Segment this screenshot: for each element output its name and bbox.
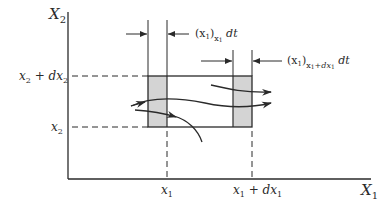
phase-space-flux-diagram: X2 X1 x2 + dx2 x2 x1 x1 + dx1 (x1)x1 dt … xyxy=(0,0,392,206)
outflow-flux-label: (x1)x1+dx1 dt xyxy=(287,54,350,70)
inflow-strip xyxy=(148,76,167,127)
x-right-tick-label: x1 + dx1 xyxy=(233,183,282,199)
trajectory-lower-tail xyxy=(174,116,202,142)
y-top-tick-label: x2 + dx2 xyxy=(19,69,68,85)
x-left-tick-label: x1 xyxy=(161,183,173,199)
y-axis-label: X2 xyxy=(48,5,66,25)
outflow-strip xyxy=(233,76,252,127)
x-axis-label: X1 xyxy=(360,181,378,201)
y-bottom-tick-label: x2 xyxy=(51,120,63,136)
inflow-flux-label: (x1)x1 dt xyxy=(195,27,238,43)
